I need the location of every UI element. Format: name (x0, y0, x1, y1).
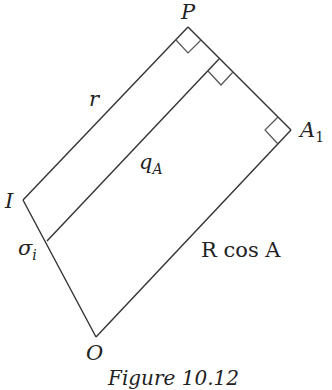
right-angle-marker-A1 (265, 117, 278, 144)
point-label-I: I (5, 191, 13, 212)
point-label-O: O (86, 343, 103, 364)
segment-label-r: r (89, 89, 99, 110)
segment-RcosA (96, 130, 291, 337)
right-angle-marker-P (176, 40, 201, 53)
segment-O-I (23, 200, 96, 337)
point-label-A1: A1 (300, 120, 324, 141)
segment-qA (47, 59, 219, 241)
segment-P-A1 (188, 27, 291, 130)
segment-label-qA: qA (139, 152, 163, 173)
point-label-sigma-i: σi (18, 238, 37, 259)
segment-label-RcosA: R cos A (201, 240, 281, 261)
segment-r (23, 27, 188, 200)
right-angle-marker-qA (208, 71, 233, 85)
point-label-P: P (181, 2, 195, 23)
figure-caption: Figure 10.12 (108, 366, 239, 390)
